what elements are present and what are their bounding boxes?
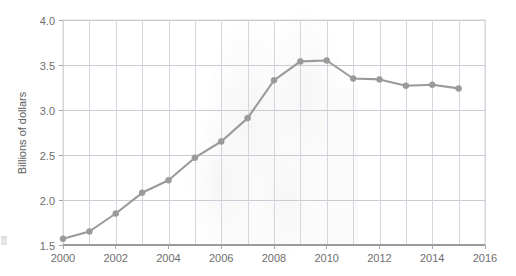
data-point — [86, 229, 92, 235]
data-point — [218, 139, 224, 145]
x-tick-label: 2014 — [420, 252, 444, 264]
x-gridlines — [64, 20, 486, 245]
data-point — [139, 190, 145, 196]
y-tick-label: 4.0 — [40, 15, 55, 27]
data-point — [324, 58, 330, 64]
data-point — [377, 76, 383, 82]
line-chart: 1.52.02.53.03.54.0 200020022004200620082… — [0, 0, 516, 276]
x-axis-ticks: 200020022004200620082010201220142016 — [51, 245, 497, 264]
background-watermark — [188, 7, 358, 258]
x-tick-label: 2008 — [262, 252, 286, 264]
data-point — [350, 76, 356, 82]
data-point — [297, 58, 303, 64]
x-tick-label: 2010 — [315, 252, 339, 264]
data-point — [113, 211, 119, 217]
data-point — [456, 85, 462, 91]
x-tick-label: 2000 — [51, 252, 75, 264]
y-axis-ticks: 1.52.02.53.03.54.0 — [40, 15, 63, 252]
page-edge-artifact — [1, 236, 7, 245]
x-tick-label: 2002 — [104, 252, 128, 264]
data-point — [429, 82, 435, 88]
x-tick-label: 2006 — [209, 252, 233, 264]
chart-figure: 1.52.02.53.03.54.0 200020022004200620082… — [0, 0, 516, 276]
data-point — [166, 177, 172, 183]
y-tick-label: 2.5 — [40, 150, 55, 162]
data-point — [245, 115, 251, 121]
data-point — [271, 77, 277, 83]
y-tick-label: 3.0 — [40, 105, 55, 117]
y-tick-label: 1.5 — [40, 240, 55, 252]
x-tick-label: 2012 — [367, 252, 391, 264]
data-point — [192, 155, 198, 161]
y-tick-label: 3.5 — [40, 60, 55, 72]
data-point — [60, 236, 66, 242]
x-tick-label: 2016 — [473, 252, 497, 264]
data-point — [403, 83, 409, 89]
y-tick-label: 2.0 — [40, 195, 55, 207]
x-tick-label: 2004 — [156, 252, 180, 264]
y-axis-title: Billions of dollars — [16, 91, 28, 174]
